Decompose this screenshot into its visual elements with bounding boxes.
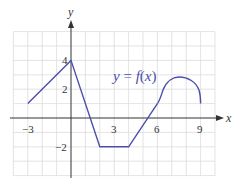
tick-y-2: 2	[62, 83, 68, 95]
tick-x-neg3: −3	[22, 123, 34, 135]
x-axis-label: x	[225, 111, 232, 125]
function-label: y = f(x)	[111, 68, 156, 85]
tick-x-9: 9	[197, 123, 203, 135]
grid	[13, 32, 215, 176]
tick-x-6: 6	[154, 123, 160, 135]
function-graph: x y −3 3 6 9 4 2 −2 y = f(x)	[0, 0, 240, 188]
x-axis-arrow-icon	[216, 115, 224, 121]
tick-x-3: 3	[111, 123, 117, 135]
y-axis-arrow-icon	[68, 20, 74, 28]
tick-y-neg2: −2	[55, 141, 67, 153]
y-axis-label: y	[67, 5, 74, 19]
